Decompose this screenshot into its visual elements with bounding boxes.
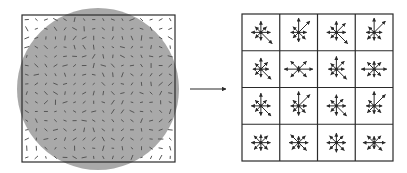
- cell-center-dot: [259, 141, 262, 144]
- gradient-sample-icon: [169, 138, 171, 140]
- cell-center-dot: [335, 68, 338, 71]
- gradient-sample-icon: [103, 91, 104, 95]
- gradient-sample-icon: [168, 37, 173, 40]
- gradient-sample-icon: [159, 28, 162, 29]
- cell-center-dot: [373, 104, 376, 107]
- gradient-sample-icon: [150, 156, 151, 159]
- cell-center-dot: [373, 141, 376, 144]
- gradient-sample-icon: [141, 128, 142, 131]
- gradient-sample-icon: [35, 19, 37, 21]
- gradient-sample-icon: [92, 28, 95, 29]
- gradient-sample-icon: [130, 65, 134, 66]
- gradient-sample-icon: [159, 148, 163, 149]
- cell-center-dot: [297, 141, 300, 144]
- gradient-sample-icon: [46, 156, 47, 158]
- gradient-sample-icon: [54, 111, 56, 112]
- gradient-sample-icon: [122, 146, 123, 150]
- gradient-sample-icon: [25, 65, 29, 66]
- gradient-sample-icon: [65, 36, 66, 41]
- cell-center-dot: [259, 68, 262, 71]
- gradient-sample-icon: [168, 28, 172, 30]
- gradient-sample-icon: [159, 19, 163, 21]
- gradient-sample-icon: [36, 128, 37, 131]
- orientation-histogram-cell: [327, 133, 346, 152]
- keypoint-descriptor-panel: [242, 14, 393, 161]
- gradient-sample-icon: [141, 35, 142, 40]
- gradient-sample-icon: [159, 155, 162, 160]
- gradient-sample-icon: [25, 138, 29, 140]
- cell-center-dot: [335, 31, 338, 34]
- gradient-sample-icon: [65, 91, 66, 95]
- gradient-sample-icon: [113, 72, 114, 77]
- gradient-sample-icon: [168, 93, 172, 94]
- gradient-sample-icon: [151, 82, 152, 86]
- cell-center-dot: [259, 104, 262, 107]
- image-gradients-panel: [17, 8, 179, 170]
- diagram-canvas: [0, 0, 407, 173]
- cell-center-dot: [373, 31, 376, 34]
- cell-center-dot: [335, 141, 338, 144]
- gradient-sample-icon: [26, 55, 27, 58]
- gradient-sample-icon: [170, 146, 171, 150]
- gradient-sample-icon: [35, 156, 38, 159]
- gradient-sample-icon: [25, 26, 28, 31]
- gradient-sample-icon: [168, 130, 173, 131]
- gradient-sample-icon: [25, 157, 28, 158]
- gradient-sample-icon: [63, 56, 67, 57]
- gradient-sample-icon: [25, 129, 28, 130]
- cell-center-dot: [297, 31, 300, 34]
- gradient-sample-icon: [131, 102, 134, 103]
- gradient-sample-icon: [35, 28, 38, 29]
- cell-center-dot: [373, 68, 376, 71]
- gradient-sample-icon: [150, 19, 153, 20]
- gaussian-window: [17, 8, 179, 170]
- cell-center-dot: [335, 104, 338, 107]
- cell-center-dot: [297, 104, 300, 107]
- gradient-sample-icon: [93, 45, 94, 50]
- gradient-sample-icon: [169, 18, 171, 21]
- cell-center-dot: [297, 68, 300, 71]
- cell-center-dot: [259, 31, 262, 34]
- gradient-sample-icon: [149, 129, 153, 130]
- gradient-sample-icon: [24, 37, 29, 39]
- gradient-sample-icon: [140, 102, 143, 103]
- gradient-sample-icon: [44, 19, 48, 20]
